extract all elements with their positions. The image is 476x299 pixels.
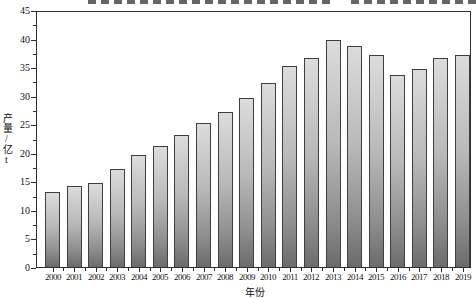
bar-2004: [131, 155, 146, 267]
y-major-tick: [31, 154, 36, 155]
y-tick-label: 0: [4, 263, 30, 273]
bar-2019: [455, 55, 470, 267]
bar-2006: [174, 135, 189, 267]
y-major-tick: [31, 11, 36, 12]
bar-2007: [196, 123, 211, 267]
y-minor-tick: [33, 140, 36, 141]
bar-2000: [45, 192, 60, 267]
bar-2003: [110, 169, 125, 267]
bar-2009: [239, 98, 254, 267]
bar-2005: [153, 146, 168, 267]
x-minor-tick: [322, 268, 323, 271]
bar-2012: [304, 58, 319, 267]
x-minor-tick: [63, 268, 64, 271]
y-minor-tick: [33, 197, 36, 198]
bar-2002: [88, 183, 103, 267]
x-minor-tick: [193, 268, 194, 271]
y-tick-label: 35: [4, 63, 30, 73]
y-axis-title: 产量/亿t: [1, 113, 12, 165]
y-major-tick: [31, 125, 36, 126]
x-minor-tick: [344, 268, 345, 271]
y-minor-tick: [33, 25, 36, 26]
plot-area: [36, 11, 471, 268]
clipped-caption-fragment-left: [88, 0, 335, 4]
x-minor-tick: [452, 268, 453, 271]
bar-2015: [369, 55, 384, 267]
bar-2018: [433, 58, 448, 267]
x-minor-tick: [214, 268, 215, 271]
y-major-tick: [31, 239, 36, 240]
bar-2013: [326, 40, 341, 267]
x-minor-tick: [365, 268, 366, 271]
y-minor-tick: [33, 168, 36, 169]
y-tick-label: 10: [4, 206, 30, 216]
x-minor-tick: [279, 268, 280, 271]
x-minor-tick: [85, 268, 86, 271]
y-tick-label: 30: [4, 92, 30, 102]
y-major-tick: [31, 268, 36, 269]
y-tick-label: 15: [4, 177, 30, 187]
x-minor-tick: [128, 268, 129, 271]
x-axis-title: 年份: [240, 284, 270, 299]
x-minor-tick: [301, 268, 302, 271]
x-minor-tick: [171, 268, 172, 271]
y-major-tick: [31, 211, 36, 212]
bar-2008: [218, 112, 233, 267]
bar-2016: [390, 75, 405, 267]
bar-2001: [67, 186, 82, 267]
y-tick-label: 5: [4, 234, 30, 244]
x-minor-tick: [258, 268, 259, 271]
y-major-tick: [31, 182, 36, 183]
y-major-tick: [31, 68, 36, 69]
x-minor-tick: [409, 268, 410, 271]
y-minor-tick: [33, 254, 36, 255]
y-minor-tick: [33, 225, 36, 226]
bar-chart-figure: 0510152025303540452000200120022003200420…: [0, 0, 476, 299]
y-minor-tick: [33, 111, 36, 112]
clipped-caption-fragment-right: [351, 0, 476, 4]
x-minor-tick: [150, 268, 151, 271]
x-minor-tick: [236, 268, 237, 271]
bar-2017: [412, 69, 427, 267]
y-major-tick: [31, 97, 36, 98]
y-tick-label: 40: [4, 35, 30, 45]
y-tick-label: 45: [4, 6, 30, 16]
y-minor-tick: [33, 54, 36, 55]
y-minor-tick: [33, 82, 36, 83]
x-minor-tick: [106, 268, 107, 271]
x-minor-tick: [430, 268, 431, 271]
x-tick-label: 2019: [450, 273, 476, 282]
bar-2010: [261, 83, 276, 267]
bar-2011: [282, 66, 297, 267]
bar-2014: [347, 46, 362, 267]
y-major-tick: [31, 40, 36, 41]
x-minor-tick: [387, 268, 388, 271]
